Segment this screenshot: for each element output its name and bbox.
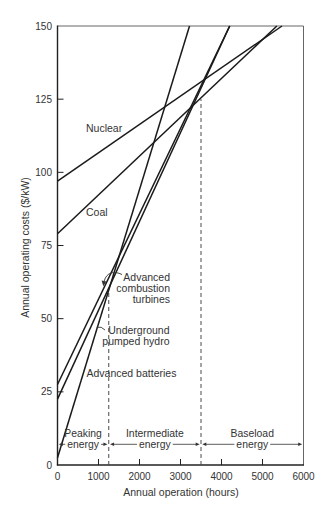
region-label-intermediate-line1: Intermediate bbox=[126, 428, 184, 439]
y-tick-label: 100 bbox=[35, 167, 52, 178]
x-tick-label: 4000 bbox=[210, 471, 233, 482]
label-hydro-line2: pumped hydro bbox=[102, 335, 169, 347]
series-line-batteries bbox=[58, 26, 190, 458]
region-baseload: Baseloadenergy bbox=[202, 428, 302, 450]
x-axis-title: Annual operation (hours) bbox=[123, 486, 239, 498]
line-chart: 0255075100125150010002000300040005000600… bbox=[0, 0, 330, 513]
arrowhead-right-icon bbox=[298, 443, 302, 447]
arrowhead-right-icon bbox=[196, 443, 200, 447]
arrowhead-left-icon bbox=[202, 443, 206, 447]
y-tick-label: 25 bbox=[41, 386, 53, 397]
label-turbines-line3: turbines bbox=[133, 293, 170, 305]
y-tick-label: 125 bbox=[35, 94, 52, 105]
region-label-baseload-line2: energy bbox=[236, 439, 269, 450]
y-axis-title: Annual operating costs ($/kW) bbox=[19, 177, 31, 318]
region-peaking: Peakingenergy bbox=[59, 428, 108, 450]
x-tick-label: 5000 bbox=[251, 471, 274, 482]
x-tick-label: 6000 bbox=[292, 471, 315, 482]
region-label-baseload-line1: Baseload bbox=[231, 428, 275, 439]
region-label-peaking-line2: energy bbox=[67, 439, 100, 450]
y-tick-label: 50 bbox=[41, 313, 53, 324]
arrowhead-right-icon bbox=[103, 443, 107, 447]
region-intermediate: Intermediateenergy bbox=[110, 428, 200, 450]
axis-ticks: 0255075100125150010002000300040005000600… bbox=[35, 21, 315, 482]
label-nuclear: Nuclear bbox=[86, 122, 123, 134]
label-batteries: Advanced batteries bbox=[87, 367, 177, 379]
region-label-intermediate-line2: energy bbox=[139, 439, 172, 450]
x-tick-label: 3000 bbox=[169, 471, 192, 482]
x-tick-label: 0 bbox=[55, 471, 61, 482]
x-tick-label: 2000 bbox=[128, 471, 151, 482]
hydro-leader-line-icon bbox=[97, 327, 105, 330]
y-tick-label: 0 bbox=[46, 460, 52, 471]
figure: 0255075100125150010002000300040005000600… bbox=[0, 0, 330, 513]
x-tick-label: 1000 bbox=[87, 471, 110, 482]
y-tick-label: 75 bbox=[41, 240, 53, 251]
y-tick-label: 150 bbox=[35, 21, 52, 32]
label-coal: Coal bbox=[86, 206, 108, 218]
energy-regions: PeakingenergyIntermediateenergyBaseloade… bbox=[59, 428, 302, 450]
plot-frame bbox=[57, 26, 304, 466]
region-label-peaking-line1: Peaking bbox=[64, 428, 102, 439]
arrowhead-left-icon bbox=[110, 443, 114, 447]
series-annotations: Nuclear Coal Advanced combustion turbine… bbox=[86, 122, 176, 379]
series-line-nuclear bbox=[58, 26, 282, 181]
series-lines bbox=[58, 26, 282, 458]
